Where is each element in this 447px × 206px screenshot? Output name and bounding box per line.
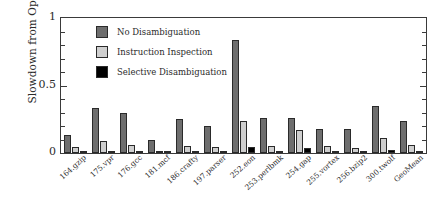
axis-tick-mark [422,99,426,100]
bar [176,119,183,153]
axis-tick-mark [61,59,65,60]
bar [372,106,379,153]
axis-tick-mark [61,86,67,87]
x-axis-ticks: 164.gzip175.vpr176.gcc181.mcf186.crafty1… [60,153,425,206]
axis-tick-mark [422,59,426,60]
bar [148,140,155,154]
legend-swatch [96,26,108,38]
axis-tick-mark [422,126,426,127]
bar [400,121,407,153]
axis-tick-mark [61,113,65,114]
axis-tick-mark [61,126,65,127]
axis-tick-mark [420,86,426,87]
bar-chart-figure: Slowdown from Optimal 00.51 No Disambigu… [0,0,447,206]
bar [324,146,331,153]
bar [232,40,239,153]
y-tick-label: 1 [26,11,56,22]
axis-tick-mark [422,45,426,46]
y-axis-ticks: 00.51 [22,0,56,206]
legend-label: Selective Disambiguation [117,67,227,77]
bar [184,146,191,153]
bar [268,146,275,153]
bar [204,126,211,153]
bar-group [344,18,367,153]
bar-group [260,18,283,153]
axis-tick-mark [422,72,426,73]
legend-item: No Disambiguation [96,23,227,40]
axis-tick-mark [422,32,426,33]
bar [120,113,127,154]
bar [100,141,107,153]
bar [260,118,267,153]
bar [296,130,303,153]
bar [64,135,71,153]
bar [240,121,247,153]
legend-swatch [96,66,108,78]
legend-item: Instruction Inspection [96,43,227,60]
bar [92,108,99,153]
y-tick-label: 0.5 [26,79,56,90]
axis-tick-mark [61,72,65,73]
bar-group [288,18,311,153]
bar [408,145,415,153]
legend-item: Selective Disambiguation [96,63,227,80]
bar-group [232,18,255,153]
bar [380,138,387,153]
axis-tick-mark [61,140,65,141]
y-tick-label: 0 [26,146,56,157]
bar-group [372,18,395,153]
legend-label: Instruction Inspection [117,47,213,57]
bar-group [316,18,339,153]
bar [288,118,295,153]
axis-tick-mark [61,32,65,33]
axis-tick-mark [422,140,426,141]
plot-area: No DisambiguationInstruction InspectionS… [60,17,427,154]
axis-tick-mark [61,99,65,100]
legend-swatch [96,46,108,58]
bar [128,145,135,153]
bar [344,129,351,153]
bar [316,129,323,153]
legend-label: No Disambiguation [117,27,200,37]
axis-tick-mark [61,45,65,46]
axis-tick-mark [422,113,426,114]
chart-legend: No DisambiguationInstruction InspectionS… [96,23,227,83]
